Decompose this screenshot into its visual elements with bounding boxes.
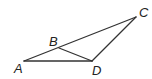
label-c: C: [139, 5, 149, 20]
segments: [24, 17, 136, 61]
label-a: A: [13, 61, 23, 76]
label-d: D: [92, 63, 101, 78]
segment-bd: [59, 48, 92, 61]
label-b: B: [49, 34, 58, 49]
diagram-canvas: A B C D: [0, 0, 152, 79]
segment-dc: [92, 17, 136, 61]
segment-ac: [24, 17, 136, 61]
triangle-diagram: A B C D: [0, 0, 152, 79]
vertex-labels: A B C D: [13, 5, 149, 78]
